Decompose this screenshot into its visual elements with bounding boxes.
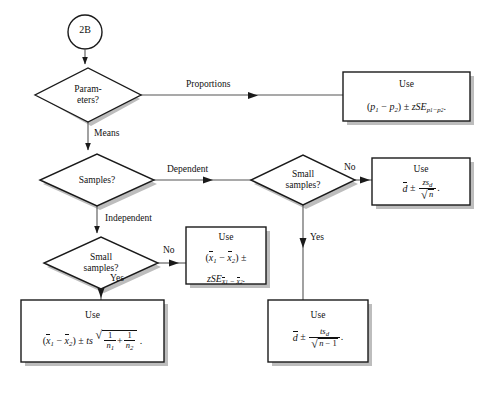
dependent-small-result-box (268, 300, 368, 362)
small-samples-dependent-diamond (251, 155, 355, 205)
edge-label-dependent-no: No (344, 162, 356, 172)
edge-label-independent: Independent (105, 213, 152, 223)
edge-label-dependent-yes: Yes (310, 232, 324, 242)
independent-large-result-box (186, 227, 266, 284)
edge-label-dependent: Dependent (167, 164, 208, 174)
dependent-large-result-box (372, 158, 470, 205)
flowchart-vector-layer (0, 0, 478, 393)
start-node-circle (68, 15, 102, 49)
edge-label-proportions: Proportions (186, 79, 230, 89)
proportions-result-box (343, 72, 470, 121)
samples-decision-diamond (40, 154, 154, 206)
edge-label-means: Means (94, 128, 119, 138)
edge-label-independent-no: No (163, 245, 175, 255)
edge-label-independent-yes: Yes (110, 273, 124, 283)
small-samples-independent-diamond (44, 237, 158, 289)
independent-small-result-box (21, 300, 164, 362)
flowchart-canvas: 2B Param- eters? Samples? Small samples?… (0, 0, 478, 393)
